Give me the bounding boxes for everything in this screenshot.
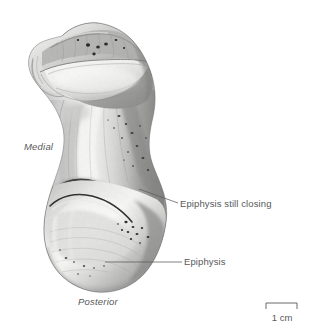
annotation-epiphysis-still-closing: Epiphysis still closing [180,198,272,209]
bone-illustration [0,0,314,329]
bone-body [20,18,180,300]
scale-bar-label: 1 cm [265,312,299,323]
annotation-epiphysis: Epiphysis [184,256,226,267]
figure-root: Epiphysis still closing Epiphysis Medial… [0,0,314,329]
scale-bar-graphic [266,303,297,309]
orientation-label-posterior: Posterior [78,296,118,307]
orientation-label-medial: Medial [24,141,53,152]
